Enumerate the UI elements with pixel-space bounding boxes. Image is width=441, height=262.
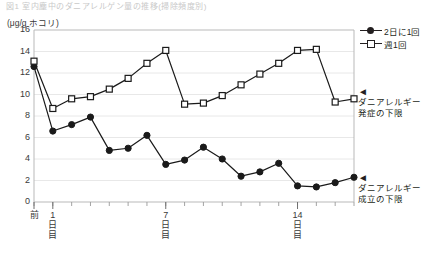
open-square-icon	[182, 101, 188, 107]
annotation-onset-line2: 発症の下限	[358, 108, 403, 118]
open-square-icon	[50, 105, 56, 111]
filled-circle-icon	[69, 122, 75, 128]
filled-circle-icon	[294, 183, 300, 189]
filled-circle-icon	[313, 184, 319, 190]
open-square-icon	[219, 93, 225, 99]
open-square-icon	[295, 47, 301, 53]
filled-circle-icon	[87, 114, 93, 120]
series-line-0	[34, 67, 354, 187]
filled-circle-icon	[257, 169, 263, 175]
legend-label-0: 2日に1回	[384, 25, 420, 37]
x-axis-major-label: 7日目	[155, 210, 177, 240]
filled-circle-icon	[351, 174, 357, 180]
y-axis-tick-label: 0	[12, 197, 30, 206]
filled-circle-icon	[163, 161, 169, 167]
open-square-icon	[313, 46, 319, 52]
y-axis-tick-label: 4	[12, 154, 30, 163]
open-square-icon	[106, 86, 112, 92]
filled-circle-icon	[200, 144, 206, 150]
y-axis-tick-label: 10	[12, 90, 30, 99]
x-axis-major-label: 14日目	[287, 210, 309, 240]
y-axis-tick-label: 6	[12, 133, 30, 142]
filled-circle-icon	[219, 156, 225, 162]
open-square-icon	[87, 94, 93, 100]
left-arrow-icon: ◄	[358, 87, 421, 97]
open-square-icon	[31, 58, 37, 64]
legend-item-0: 2日に1回	[360, 24, 420, 37]
filled-circle-icon	[238, 173, 244, 179]
filled-circle-icon	[360, 25, 382, 36]
filled-circle-icon	[332, 180, 338, 186]
legend-item-1: 週1回	[360, 37, 420, 50]
open-square-icon	[351, 96, 357, 102]
annotation-sens-line1: ダニアレルギー	[358, 183, 421, 193]
legend-label-1: 週1回	[384, 38, 407, 50]
chart-legend: 2日に1回 週1回	[360, 24, 420, 50]
open-square-icon	[332, 99, 338, 105]
series-line-1	[34, 49, 354, 108]
open-square-icon	[144, 60, 150, 66]
y-axis-tick-label: 8	[12, 111, 30, 120]
annotation-onset-line1: ダニアレルギー	[358, 97, 421, 107]
open-square-icon	[163, 47, 169, 53]
y-axis-tick-label: 2	[12, 176, 30, 185]
y-axis-tick-label: 14	[12, 47, 30, 56]
y-axis-tick-label: 12	[12, 68, 30, 77]
filled-circle-icon	[276, 160, 282, 166]
chart-figure: 図1 室内塵中のダニアレルゲン量の推移(掃除頻度別) (μg/g ホコリ) 2日…	[0, 0, 441, 262]
annotation-sens-line2: 成立の下限	[358, 194, 403, 204]
filled-circle-icon	[50, 128, 56, 134]
annotation-sensitization-threshold: ◄ ダニアレルギー 成立の下限	[358, 173, 421, 205]
open-square-icon	[125, 75, 131, 81]
open-square-icon	[257, 71, 263, 77]
x-axis-major-label: 1日目	[42, 210, 64, 240]
left-arrow-icon: ◄	[358, 173, 421, 183]
filled-circle-icon	[125, 145, 131, 151]
open-square-icon	[276, 60, 282, 66]
open-square-icon	[69, 96, 75, 102]
filled-circle-icon	[106, 147, 112, 153]
filled-circle-icon	[181, 157, 187, 163]
filled-circle-icon	[144, 132, 150, 138]
annotation-onset-threshold: ◄ ダニアレルギー 発症の下限	[358, 87, 421, 119]
open-square-icon	[200, 100, 206, 106]
open-square-icon	[360, 38, 382, 49]
y-axis-tick-label: 16	[12, 25, 30, 34]
open-square-icon	[238, 82, 244, 88]
